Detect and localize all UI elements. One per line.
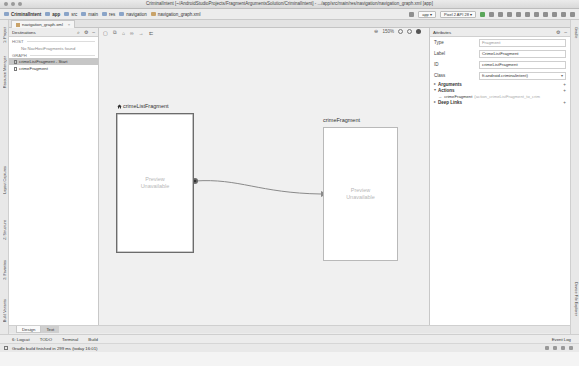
- close-tab-icon[interactable]: ×: [68, 22, 71, 27]
- tool-windows-bar: 6: Logcat TODO Terminal Build Event Log: [0, 334, 579, 343]
- expand-arrow-icon: ▸: [434, 100, 436, 104]
- destination-item-crimefragment[interactable]: crimeFragment: [9, 65, 98, 72]
- folder-icon: [64, 12, 69, 16]
- chevron-down-icon: ▾: [561, 73, 563, 78]
- breadcrumb-project[interactable]: CriminalIntent: [4, 12, 41, 17]
- collapse-arrow-icon: ▾: [434, 88, 436, 92]
- tool-window-logcat[interactable]: 6: Logcat: [12, 337, 30, 342]
- folder-icon: [81, 12, 86, 16]
- tool-tab-structure[interactable]: Z: Structure: [0, 215, 9, 245]
- attr-row-class: Class ft.android.criminalintent)▾: [430, 70, 570, 81]
- profile-icon[interactable]: [507, 12, 512, 17]
- node-label-crimefragment: crimeFragment: [323, 117, 360, 123]
- event-log-button[interactable]: Event Log: [552, 337, 571, 342]
- host-empty-note: No NavHostFragments found: [9, 44, 98, 51]
- left-tool-strip: 1: Project Resource Manager Layout Captu…: [0, 20, 9, 334]
- search-everywhere-icon[interactable]: [570, 12, 575, 17]
- arrow-right-icon: →: [438, 94, 442, 99]
- hammer-icon[interactable]: [409, 12, 414, 17]
- host-section-header: HOST: [9, 37, 98, 44]
- window-titlebar: CriminalIntent [~/AndroidStudioProjects/…: [0, 0, 579, 9]
- add-deep-link-button[interactable]: +: [563, 100, 566, 105]
- toggle-tool-windows-icon[interactable]: [4, 346, 8, 350]
- avd-manager-icon[interactable]: [543, 12, 548, 17]
- class-select[interactable]: ft.android.criminalintent)▾: [479, 72, 566, 80]
- attributes-panel: Attributes ⚙ – Type Fragment Label Crime…: [429, 28, 570, 325]
- navigation-graph-canvas[interactable]: ▢ ⧉ ⌂ ∞ → ⇇ ⊖ 150% crimeListFragment Pre…: [99, 28, 429, 325]
- graph-section-header: GRAPH: [9, 51, 98, 58]
- folder-icon: [4, 12, 9, 16]
- breadcrumb-navigation[interactable]: navigation: [119, 12, 147, 17]
- status-bar: Gradle build finished in 299 ms (today 1…: [0, 343, 579, 352]
- right-tool-strip: Gradle Device File Explorer: [570, 20, 579, 334]
- editor-tabbar: navigation_graph.xml ×: [9, 20, 570, 28]
- navigation-bar: CriminalIntent app src main res navigati…: [0, 9, 579, 20]
- device-select[interactable]: Pixel 2 API 28 ▾: [440, 11, 476, 18]
- debug-icon[interactable]: [498, 12, 503, 17]
- layout-inspector-icon[interactable]: [561, 12, 566, 17]
- tool-tab-resource-manager[interactable]: Resource Manager: [0, 50, 9, 94]
- attr-row-id: ID crimeListFragment: [430, 59, 570, 70]
- attach-debugger-icon[interactable]: [516, 12, 521, 17]
- breadcrumb-src[interactable]: src: [64, 12, 77, 17]
- lock-icon[interactable]: [553, 346, 557, 350]
- folder-icon: [102, 12, 107, 16]
- sdk-manager-icon[interactable]: [552, 12, 557, 17]
- sync-gradle-icon[interactable]: [534, 12, 539, 17]
- node-crimefragment[interactable]: PreviewUnavailable: [323, 127, 398, 261]
- memory-icon[interactable]: [569, 346, 573, 350]
- breadcrumb-main[interactable]: main: [81, 12, 98, 17]
- hide-panel-icon[interactable]: –: [92, 29, 95, 36]
- tool-tab-layout-captures[interactable]: Layout Captures: [0, 160, 9, 200]
- add-argument-button[interactable]: +: [563, 82, 566, 87]
- tool-tab-build-variants[interactable]: Build Variants: [0, 292, 9, 330]
- attr-row-type: Type Fragment: [430, 37, 570, 48]
- stop-icon[interactable]: [525, 12, 530, 17]
- tool-tab-project[interactable]: 1: Project: [0, 22, 9, 48]
- tool-tab-gradle[interactable]: Gradle: [571, 22, 579, 44]
- window-title: CriminalIntent [~/AndroidStudioProjects/…: [0, 1, 579, 6]
- deep-links-group[interactable]: ▸Deep Links+: [430, 99, 570, 105]
- node-label-crimelistfragment: crimeListFragment: [117, 103, 169, 109]
- type-field: Fragment: [479, 39, 566, 47]
- tool-tab-device-file-explorer[interactable]: Device File Explorer: [571, 270, 579, 328]
- tab-text[interactable]: Text: [41, 326, 59, 333]
- hide-panel-icon[interactable]: –: [564, 29, 567, 35]
- attributes-header: Attributes ⚙ –: [430, 28, 570, 37]
- tool-window-terminal[interactable]: Terminal: [62, 337, 78, 342]
- fragment-icon: [14, 67, 17, 71]
- main-toolbar: app ▾ Pixel 2 API 28 ▾: [409, 10, 575, 19]
- gear-icon[interactable]: ⚙: [84, 29, 88, 36]
- search-icon[interactable]: ⌕: [77, 29, 80, 36]
- tool-tab-favorites[interactable]: 2: Favorites: [0, 255, 9, 285]
- run-icon[interactable]: [480, 12, 485, 17]
- destinations-panel: Destinations ⌕ ⚙ – HOST No NavHostFragme…: [9, 28, 99, 325]
- inspector-icon[interactable]: [561, 346, 565, 350]
- attr-row-label: Label CrimeListFragment: [430, 48, 570, 59]
- label-field[interactable]: CrimeListFragment: [479, 50, 566, 58]
- tool-window-todo[interactable]: TODO: [40, 337, 52, 342]
- status-indicators: [545, 346, 573, 350]
- xml-file-icon: [16, 23, 20, 27]
- git-icon[interactable]: [545, 346, 549, 350]
- destination-item-crimelistfragment[interactable]: crimeListFragment - Start: [9, 58, 98, 65]
- breadcrumb-file[interactable]: navigation_graph.xml: [151, 12, 201, 17]
- tab-design[interactable]: Design: [16, 326, 41, 333]
- tool-window-build[interactable]: Build: [88, 337, 98, 342]
- folder-icon: [119, 12, 124, 16]
- tab-navigation-graph[interactable]: navigation_graph.xml ×: [11, 20, 75, 28]
- gear-icon[interactable]: ⚙: [556, 29, 560, 35]
- expand-arrow-icon: ▸: [434, 82, 436, 86]
- node-crimelistfragment[interactable]: PreviewUnavailable: [116, 113, 194, 253]
- attributes-title: Attributes: [433, 30, 451, 35]
- apply-changes-icon[interactable]: [489, 12, 494, 17]
- breadcrumb-res[interactable]: res: [102, 12, 115, 17]
- add-action-button[interactable]: +: [563, 88, 566, 93]
- destinations-header: Destinations ⌕ ⚙ –: [9, 28, 98, 37]
- breadcrumb-app[interactable]: app: [45, 12, 60, 17]
- id-field[interactable]: crimeListFragment: [479, 61, 566, 69]
- folder-icon: [45, 12, 50, 16]
- xml-file-icon: [151, 12, 156, 16]
- run-config-select[interactable]: app ▾: [418, 11, 436, 18]
- window-bottom-margin: [0, 352, 579, 366]
